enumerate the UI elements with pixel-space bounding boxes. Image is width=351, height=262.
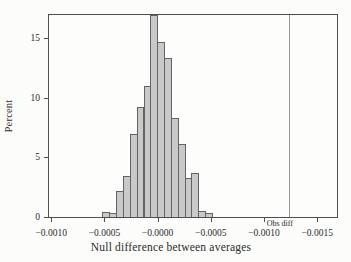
x-tick-mark: [211, 218, 212, 222]
y-tick-mark: [44, 157, 48, 158]
x-tick-label: −0.0015: [301, 228, 332, 238]
obs-diff-line: [289, 15, 290, 217]
x-tick-mark: [317, 218, 318, 222]
x-tick-label: −0.0005: [89, 228, 120, 238]
x-tick-mark: [104, 218, 105, 222]
x-tick-mark: [264, 218, 265, 222]
x-tick-label: −0.0010: [248, 228, 279, 238]
x-tick-mark: [51, 218, 52, 222]
y-tick-mark: [44, 38, 48, 39]
x-tick-label: −0.0000: [142, 228, 173, 238]
histogram-bar: [205, 213, 213, 217]
x-tick-label: −0.0005: [195, 228, 226, 238]
y-tick-mark: [44, 217, 48, 218]
plot-area: [48, 14, 338, 218]
y-tick-label: 10: [14, 94, 40, 103]
x-axis-title: Null difference between averages: [91, 241, 251, 253]
y-tick-label: 5: [14, 153, 40, 162]
x-tick-mark: [158, 218, 159, 222]
y-tick-mark: [44, 98, 48, 99]
x-tick-label: −0.0010: [35, 228, 66, 238]
y-tick-label: 0: [14, 213, 40, 222]
obs-diff-label: Obs diff: [267, 219, 293, 228]
y-axis-title: Percent: [3, 100, 14, 133]
y-tick-label: 15: [14, 34, 40, 43]
histogram-figure: Percent 051015 −0.0010−0.0005−0.0000−0.0…: [0, 0, 351, 262]
